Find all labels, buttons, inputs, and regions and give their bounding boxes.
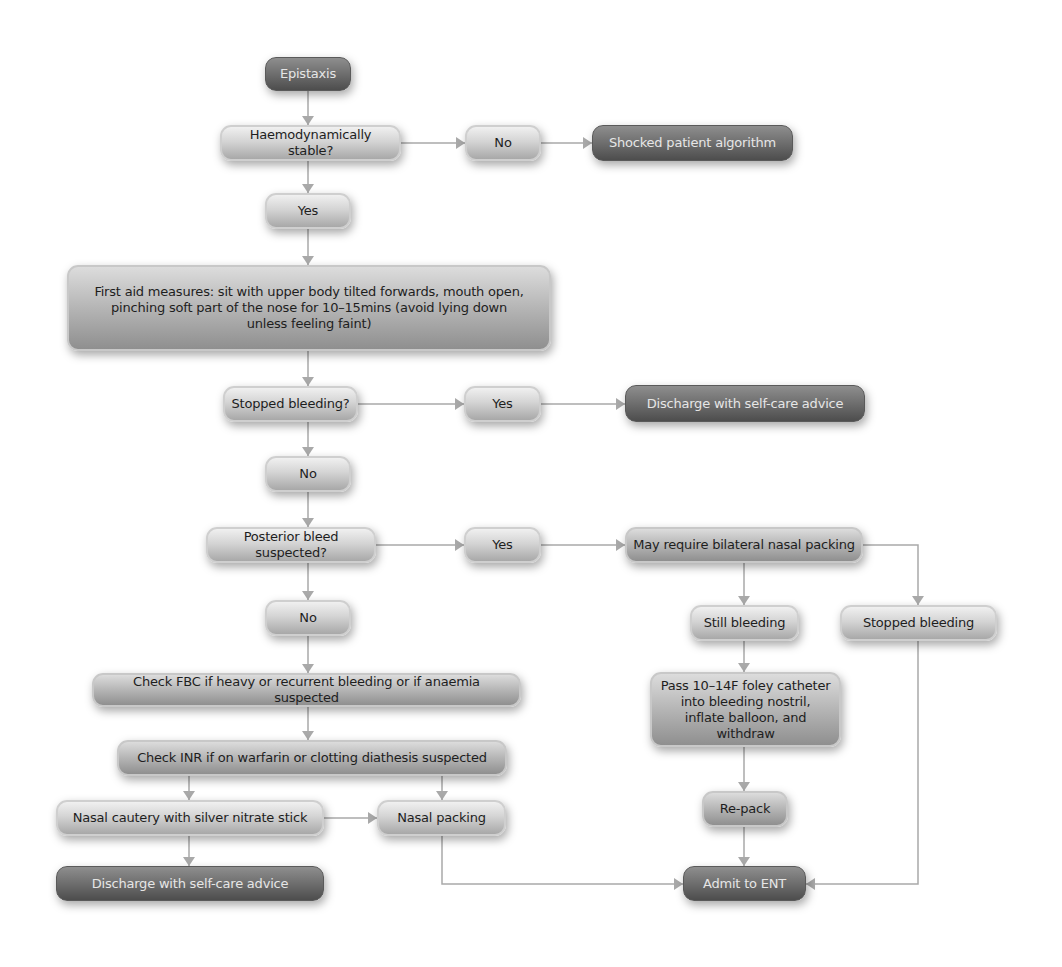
node-cautery: Nasal cautery with silver nitrate stick: [56, 800, 324, 836]
node-check-inr: Check INR if on warfarin or clotting dia…: [117, 740, 507, 776]
node-shocked: Shocked patient algorithm: [592, 125, 793, 161]
arrowhead-icon: [302, 447, 314, 456]
node-posterior-q: Posterior bleed suspected?: [206, 527, 376, 563]
node-first-aid: First aid measures: sit with upper body …: [67, 265, 551, 351]
node-stopped-bleeding: Stopped bleeding: [840, 605, 997, 641]
arrowhead-icon: [183, 857, 195, 866]
node-still-bleeding: Still bleeding: [690, 605, 799, 641]
arrowhead-icon: [183, 791, 195, 800]
arrowhead-icon: [455, 539, 464, 551]
node-admit-ent: Admit to ENT: [683, 866, 806, 901]
arrowhead-icon: [674, 878, 683, 890]
arrowhead-icon: [302, 664, 314, 673]
arrowhead-icon: [806, 878, 815, 890]
arrowhead-icon: [302, 184, 314, 193]
node-discharge-2: Discharge with self-care advice: [56, 866, 324, 901]
node-yes-stopped: Yes: [464, 386, 541, 422]
node-no-posterior: No: [265, 600, 351, 636]
arrowhead-icon: [616, 539, 625, 551]
connector-packing-to-admit: [442, 836, 683, 884]
arrowhead-icon: [302, 518, 314, 527]
arrowhead-icon: [583, 137, 592, 149]
node-epistaxis: Epistaxis: [265, 57, 351, 91]
node-nasal-packing: Nasal packing: [377, 800, 506, 836]
arrowhead-icon: [302, 116, 314, 125]
arrowhead-icon: [302, 256, 314, 265]
node-discharge-1: Discharge with self-care advice: [625, 385, 865, 422]
node-repack: Re-pack: [702, 791, 788, 827]
arrowhead-icon: [302, 377, 314, 386]
arrowhead-icon: [455, 398, 464, 410]
arrowhead-icon: [368, 812, 377, 824]
arrowhead-icon: [738, 596, 750, 605]
arrowhead-icon: [456, 137, 465, 149]
node-no-shock: No: [465, 125, 541, 161]
node-check-fbc: Check FBC if heavy or recurrent bleeding…: [92, 673, 521, 707]
node-stopped-q: Stopped bleeding?: [223, 386, 358, 422]
arrowhead-icon: [912, 596, 924, 605]
arrowhead-icon: [738, 663, 750, 672]
node-yes-stable: Yes: [265, 193, 351, 229]
arrowhead-icon: [436, 791, 448, 800]
arrowhead-icon: [302, 591, 314, 600]
arrowhead-icon: [738, 857, 750, 866]
node-yes-posterior: Yes: [464, 527, 541, 563]
arrowhead-icon: [302, 731, 314, 740]
node-no-stopped: No: [265, 456, 351, 492]
connector-bilateral-to-stopped: [863, 545, 918, 605]
arrowhead-icon: [616, 398, 625, 410]
node-bilateral: May require bilateral nasal packing: [625, 527, 863, 563]
arrowhead-icon: [738, 782, 750, 791]
node-foley: Pass 10–14F foley catheter into bleeding…: [650, 672, 841, 747]
node-haemo-stable: Haemodynamically stable?: [220, 125, 401, 161]
